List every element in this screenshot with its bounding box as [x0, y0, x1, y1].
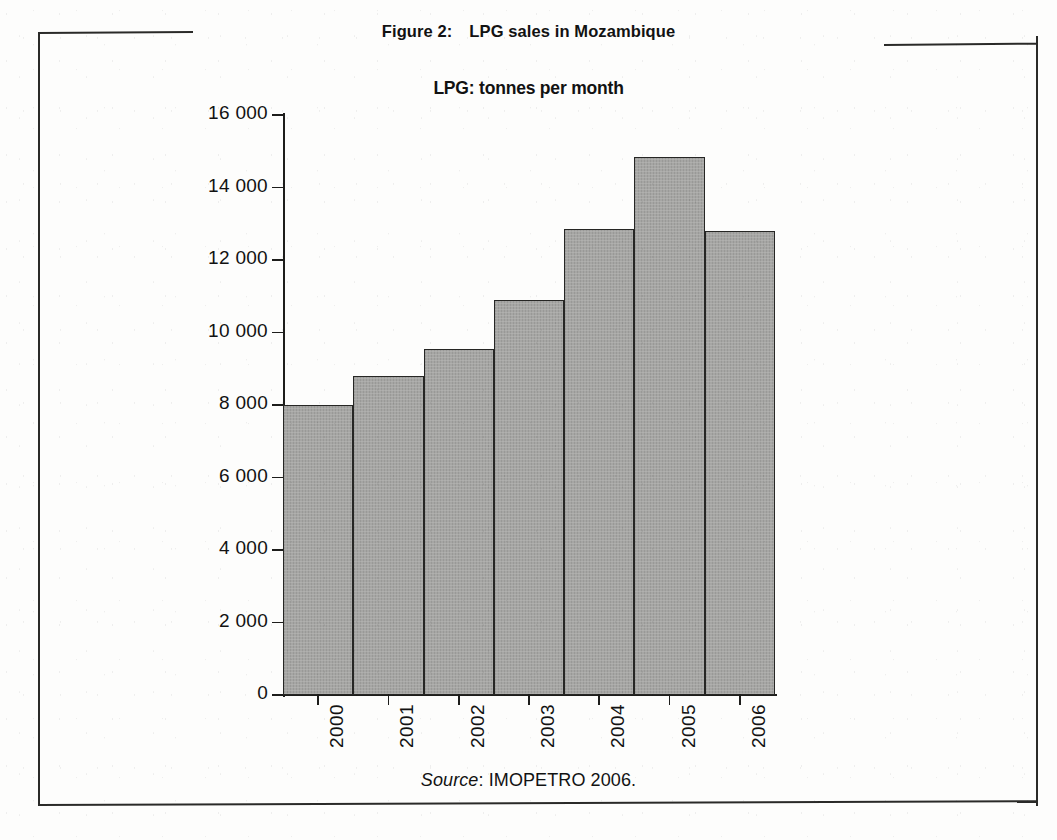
- bar: [564, 229, 634, 695]
- y-axis-tick-label: 14 000: [176, 175, 268, 197]
- chart-title: LPG: tonnes per month: [0, 78, 1057, 99]
- y-axis-tick: [272, 332, 284, 334]
- x-axis-tick: [317, 694, 319, 705]
- y-axis-tick-label: 10 000: [176, 320, 268, 342]
- bar: [705, 231, 775, 695]
- figure-caption: Figure 2:LPG sales in Mozambique: [0, 22, 1057, 41]
- bar: [353, 376, 423, 695]
- figure-caption-text: LPG sales in Mozambique: [469, 22, 675, 40]
- y-axis-tick-labels: 02 0004 0006 0008 00010 00012 00014 0001…: [168, 0, 268, 840]
- y-axis-tick-label: 0: [176, 682, 268, 704]
- x-axis-tick: [458, 694, 460, 705]
- y-axis-tick-label: 4 000: [176, 537, 268, 559]
- x-axis-tick: [528, 694, 530, 705]
- y-axis-tick: [272, 259, 284, 261]
- x-axis-tick-label: 2003: [537, 704, 559, 748]
- bar: [283, 405, 353, 695]
- x-axis-tick-label: 2005: [678, 704, 700, 748]
- y-axis-tick-label: 6 000: [176, 465, 268, 487]
- bar: [494, 300, 564, 695]
- bar-chart: LPG: tonnes per month 02 0004 0006 0008 …: [0, 0, 1057, 840]
- y-axis-tick-label: 8 000: [176, 392, 268, 414]
- bar: [424, 349, 494, 695]
- y-axis-tick: [272, 114, 284, 116]
- x-axis-tick-label: 2006: [748, 704, 770, 748]
- x-axis-tick-label: 2002: [467, 704, 489, 748]
- bar: [634, 157, 704, 695]
- x-axis-tick-label: 2004: [607, 704, 629, 748]
- x-axis-tick: [669, 694, 671, 705]
- y-axis-tick-label: 12 000: [176, 247, 268, 269]
- x-axis-tick: [598, 694, 600, 705]
- y-axis-tick-label: 16 000: [176, 102, 268, 124]
- y-axis-tick: [272, 187, 284, 189]
- figure-number: Figure 2:: [382, 22, 453, 40]
- x-axis-tick: [739, 694, 741, 705]
- y-axis-tick-label: 2 000: [176, 610, 268, 632]
- x-axis-tick: [388, 694, 390, 705]
- x-axis-tick-label: 2001: [396, 704, 418, 748]
- x-axis-tick-label: 2000: [326, 704, 348, 748]
